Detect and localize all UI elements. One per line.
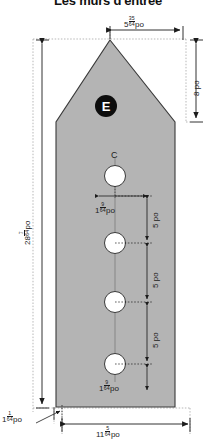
dim-label-spacing-3: 5 po xyxy=(152,332,160,348)
center-label-c: C xyxy=(111,150,118,160)
dim-label-spacing-1: 5 po xyxy=(152,212,160,228)
dim-label-spacing-2: 5 po xyxy=(152,272,160,288)
dim-label-top-width: 53564po xyxy=(124,16,144,29)
badge-e: E xyxy=(95,95,117,117)
dim-bottom-width xyxy=(62,418,190,432)
dim-label-bottom-width: 11564po xyxy=(96,426,120,439)
dim-label-peak-height: 8 po xyxy=(193,80,201,96)
drawing-stage: Les murs d'entrée xyxy=(0,0,216,446)
dim-label-hole-offset-bottom: 1964po xyxy=(99,380,119,393)
dim-total-height xyxy=(36,40,49,408)
hole-1 xyxy=(105,166,126,187)
dim-label-bottom-left-offset: 1164po xyxy=(2,411,22,424)
dim-label-total-height: 28764po xyxy=(19,221,32,245)
dim-label-hole-offset-top: 1964po xyxy=(95,202,115,215)
dim-top-width xyxy=(110,26,183,40)
